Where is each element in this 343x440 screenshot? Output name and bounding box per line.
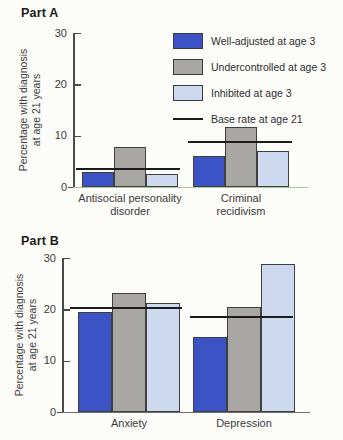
y-tick — [63, 258, 70, 259]
y-tick-label: 30 — [41, 27, 67, 39]
y-axis-label: Percentage with diagnosis at age 21 year… — [13, 240, 41, 430]
legend-item-inhibited: Inhibited at age 3 — [173, 85, 341, 101]
bar-inhibited-antisocial-personality-disorder — [146, 174, 178, 187]
legend-swatch-undercontrolled — [173, 59, 203, 75]
legend-label: Undercontrolled at age 3 — [211, 61, 326, 73]
bar-inhibited-depression — [261, 264, 295, 412]
bar-inhibited-criminal-recidivism — [257, 151, 289, 187]
y-tick-label: 30 — [30, 252, 56, 264]
y-tick-label: 10 — [41, 129, 67, 141]
legend-swatch-inhibited — [173, 85, 203, 101]
legend-item-base-rate: Base rate at age 21 — [173, 111, 341, 127]
category-label-depression: Depression — [169, 417, 319, 430]
y-axis-label-line1: Percentage with diagnosis — [17, 15, 30, 205]
y-tick-zero — [57, 412, 62, 413]
bar-well-adjusted-criminal-recidivism — [193, 156, 225, 187]
legend-item-well-adjusted: Well-adjusted at age 3 — [173, 33, 341, 49]
legend-item-undercontrolled: Undercontrolled at age 3 — [173, 59, 341, 75]
part-a-chart: Part A Percentage with diagnosis at age … — [0, 0, 343, 220]
legend: Well-adjusted at age 3 Undercontrolled a… — [173, 33, 341, 137]
bar-undercontrolled-depression — [227, 307, 261, 412]
y-tick-label: 20 — [41, 78, 67, 90]
legend-label: Base rate at age 21 — [211, 113, 303, 125]
bar-inhibited-anxiety — [146, 303, 180, 412]
base-rate-line-criminal-recidivism — [188, 141, 292, 143]
y-tick — [74, 84, 81, 85]
y-tick — [74, 33, 81, 34]
category-label-criminal-recidivism: Criminalrecidivism — [166, 192, 316, 218]
y-tick-label: 20 — [30, 303, 56, 315]
base-rate-line-anxiety — [70, 307, 182, 309]
bar-well-adjusted-anxiety — [78, 312, 112, 412]
y-axis-label-line1: Percentage with diagnosis — [13, 240, 26, 430]
legend-label: Well-adjusted at age 3 — [211, 35, 315, 47]
legend-swatch-well-adjusted — [173, 33, 203, 49]
y-tick-label: 0 — [30, 406, 56, 418]
figure: Part A Percentage with diagnosis at age … — [0, 0, 343, 440]
y-axis-label: Percentage with diagnosis at age 21 year… — [17, 15, 45, 205]
base-rate-line-depression — [190, 316, 293, 318]
y-tick — [63, 309, 70, 310]
y-tick-label: 0 — [41, 181, 67, 193]
y-tick-label: 10 — [30, 354, 56, 366]
y-axis-line — [62, 258, 64, 413]
y-tick — [74, 136, 81, 137]
y-axis-label-line2: at age 21 years — [26, 240, 39, 430]
y-tick-zero — [68, 187, 73, 188]
base-rate-line-swatch — [173, 118, 203, 120]
bar-well-adjusted-antisocial-personality-disorder — [82, 172, 114, 187]
base-rate-line-antisocial-personality-disorder — [76, 168, 180, 170]
bar-well-adjusted-depression — [193, 337, 227, 412]
y-axis-label-line2: at age 21 years — [30, 15, 43, 205]
bar-undercontrolled-anxiety — [112, 293, 146, 412]
part-b-plot: 3020100AnxietyDepression — [62, 258, 310, 412]
part-b-chart: Part B Percentage with diagnosis at age … — [0, 220, 343, 440]
legend-label: Inhibited at age 3 — [211, 87, 292, 99]
y-axis-line — [73, 33, 75, 188]
y-tick — [63, 361, 70, 362]
